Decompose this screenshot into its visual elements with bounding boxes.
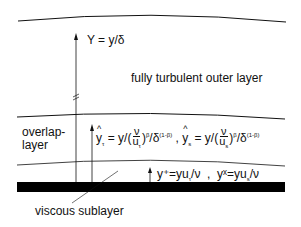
overlap-s-lhs: y — [182, 132, 188, 144]
outer-axis-arrowhead-icon — [74, 33, 78, 40]
wall — [17, 182, 285, 192]
overlap-tau-lhs: y — [96, 132, 102, 144]
overlap-tau-fraction: νuτ — [132, 127, 141, 151]
boundary-layer-edge-curve — [18, 15, 286, 22]
outer-layer-label: fully turbulent outer layer — [131, 72, 262, 84]
outer-coordinate-label: Y = y/δ — [87, 34, 124, 46]
wall-axis-arrowhead-icon — [148, 167, 152, 173]
overlap-upper-boundary-curve — [17, 113, 285, 119]
boundary-layer-diagram — [0, 0, 301, 227]
overlap-scaling-formula: yτ = y/(νuτ)β/δ(1-β) , ys = y/(νus)β/δ(1… — [96, 127, 260, 151]
overlap-layer-label-line2: layer — [22, 139, 65, 152]
wall-units-formula: y⁺=yuτ/ν , yˣ=yus/ν — [157, 168, 259, 182]
viscous-sublayer-boundary-curve — [17, 160, 285, 166]
overlap-layer-label: overlap- layer — [22, 126, 65, 152]
overlap-s-fraction: νus — [219, 127, 228, 151]
viscous-sublayer-label: viscous sublayer — [35, 205, 124, 217]
overlap-axis-arrowhead-icon — [90, 124, 94, 131]
